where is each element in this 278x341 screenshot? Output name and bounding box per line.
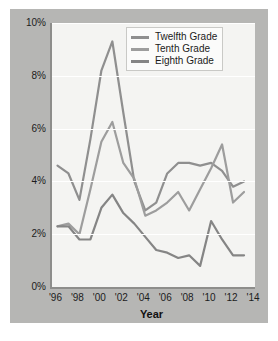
legend-label: Twelfth Grade: [155, 31, 217, 43]
chart-figure: 10%8%6%4%2%0% Twelfth GradeTenth GradeEi…: [0, 0, 278, 341]
legend-item: Tenth Grade: [131, 43, 217, 55]
x-axis-tick-label: '06: [159, 292, 172, 303]
legend-swatch-icon: [131, 60, 149, 63]
x-axis-tick-label: '00: [93, 292, 106, 303]
x-axis-tick-label: '12: [225, 292, 238, 303]
x-axis-tick-label: '04: [137, 292, 150, 303]
x-axis-tick-label: '08: [181, 292, 194, 303]
y-axis-tick-label: 2%: [2, 229, 46, 239]
x-axis-tick-label: '02: [115, 292, 128, 303]
y-axis-labels: 10%8%6%4%2%0%: [0, 23, 46, 287]
x-axis-tick-label: '96: [49, 292, 62, 303]
legend-swatch-icon: [131, 48, 149, 51]
gridline: [52, 234, 255, 235]
legend-item: Twelfth Grade: [131, 31, 217, 43]
data-series-line: [57, 122, 244, 234]
legend-label: Eighth Grade: [155, 55, 214, 67]
y-axis-tick-label: 10%: [2, 18, 46, 28]
x-axis-tick-label: '98: [71, 292, 84, 303]
y-axis-tick-label: 6%: [2, 124, 46, 134]
gridline: [52, 181, 255, 182]
legend-item: Eighth Grade: [131, 55, 217, 67]
legend-swatch-icon: [131, 36, 149, 39]
y-axis-tick-label: 0%: [2, 282, 46, 292]
x-axis-tick-label: '10: [203, 292, 216, 303]
gridline: [52, 129, 255, 130]
gridline: [52, 76, 255, 77]
x-axis-tick-label: '14: [246, 292, 259, 303]
x-axis-title: Year: [50, 308, 253, 320]
y-axis-tick-label: 8%: [2, 71, 46, 81]
y-axis-tick-label: 4%: [2, 176, 46, 186]
legend-label: Tenth Grade: [155, 43, 210, 55]
x-axis-labels: '96'98'00'02'04'06'08'10'12'14: [50, 292, 255, 306]
plot-area: Twelfth GradeTenth GradeEighth Grade: [50, 23, 255, 289]
chart-legend: Twelfth GradeTenth GradeEighth Grade: [126, 27, 223, 71]
gridline: [52, 23, 255, 24]
